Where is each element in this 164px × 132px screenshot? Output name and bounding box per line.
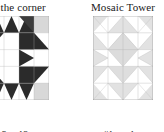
legend-row: 3-12x <box>0 129 60 132</box>
block-legend-right: #1-1x #4-8x <box>82 104 164 132</box>
legend-quantity: 12 <box>12 129 28 132</box>
legend-row: #1-1x <box>82 129 164 132</box>
block-legend-left: 3-12x 6-48x <box>0 104 60 132</box>
legend-unit: x <box>135 129 143 132</box>
block-diagram-left <box>0 16 49 100</box>
block-title-right: Mosaic Tower <box>82 1 164 14</box>
legend-quantity: 1 <box>119 129 135 132</box>
block-diagram-right <box>93 16 153 100</box>
block-panel-right: Mosaic Tower <box>82 0 164 132</box>
legend-code: #1 <box>103 129 113 132</box>
block-panel-left: n the corner <box>0 0 60 132</box>
pattern-sheet: n the corner <box>0 0 164 132</box>
block-title-left: n the corner <box>0 1 60 14</box>
legend-unit: x <box>28 129 36 132</box>
